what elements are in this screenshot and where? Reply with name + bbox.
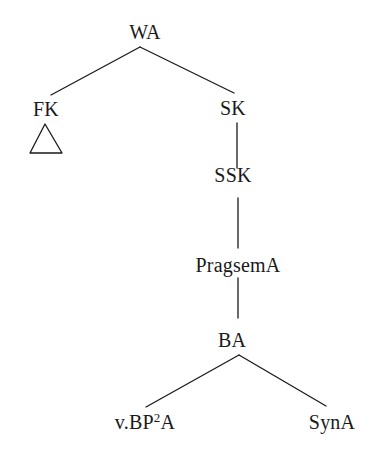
collapsed-subtree-triangle-icon [30,124,62,153]
edge-ba-vbp [146,355,239,407]
edge-wa-fk [51,47,140,95]
node-vbp2a-prefix: v.BP [115,411,154,433]
node-sk: SK [220,97,246,119]
node-ba: BA [218,329,246,351]
node-wa: WA [129,21,161,43]
node-syna: SynA [309,411,355,433]
node-fk: FK [33,98,59,120]
node-ssk: SSK [214,164,251,186]
node-vbp2a-superscript: 2 [154,410,161,425]
node-pragsema: PragsemA [196,254,281,276]
tree-edges [0,0,387,453]
node-vbp2a: v.BP2A [115,411,175,433]
node-vbp2a-suffix: A [161,411,176,433]
edge-ba-syn [239,355,326,406]
edge-wa-sk [140,47,234,93]
